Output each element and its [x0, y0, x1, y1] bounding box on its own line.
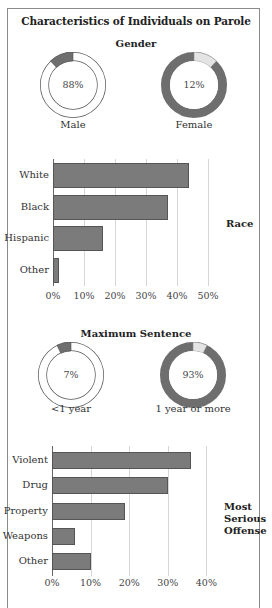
offense-category-label: Drug	[0, 479, 48, 490]
offense-tick-label: 30%	[153, 577, 183, 588]
offense-category-label: Violent	[0, 454, 48, 465]
offense-bar	[52, 477, 168, 494]
offense-tick-label: 10%	[76, 577, 106, 588]
offense-category-label: Property	[0, 505, 48, 516]
offense-bar	[52, 553, 91, 570]
offense-side-label: Most Serious Offense	[224, 501, 267, 537]
offense-bar	[52, 452, 191, 469]
offense-tick-label: 20%	[114, 577, 144, 588]
offense-tick-label: 40%	[191, 577, 221, 588]
offense-side-label-line: Offense	[224, 525, 267, 537]
offense-bar	[52, 503, 125, 520]
offense-side-label-line: Serious	[224, 513, 267, 525]
offense-category-label: Other	[0, 555, 48, 566]
offense-category-label: Weapons	[0, 530, 48, 541]
offense-gridline	[206, 446, 207, 576]
offense-bar	[52, 528, 75, 545]
offense-side-label-line: Most	[224, 501, 267, 513]
offense-tick-label: 0%	[37, 577, 67, 588]
